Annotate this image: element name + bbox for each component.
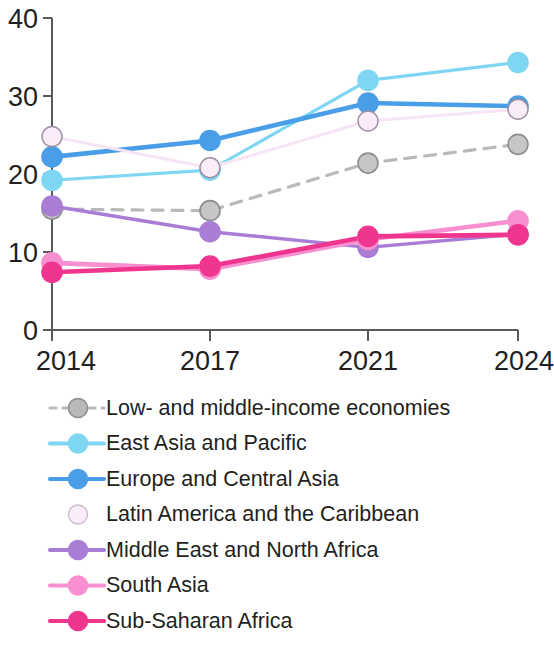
legend-swatch-marker: [69, 612, 88, 631]
legend-item-label: Low- and middle-income economies: [106, 396, 450, 420]
series-marker: [358, 93, 378, 113]
series-marker: [42, 170, 62, 190]
legend-item[interactable]: South Asia: [50, 573, 209, 597]
legend-item-label: Latin America and the Caribbean: [106, 502, 419, 526]
legend-swatch-marker: [69, 541, 88, 560]
y-axis-tick-label: 0: [23, 316, 38, 346]
legend-swatch-marker: [69, 434, 88, 453]
legend-item-label: Middle East and North Africa: [106, 538, 379, 562]
series-marker: [42, 127, 62, 147]
series-marker: [508, 225, 528, 245]
series-marker: [42, 147, 62, 167]
series-marker: [508, 99, 528, 119]
x-axis-tick-label: 2017: [180, 346, 240, 376]
legend-item-label: Sub-Saharan Africa: [106, 609, 292, 633]
series-marker: [200, 130, 220, 150]
series-marker: [200, 201, 220, 221]
series-marker: [42, 196, 62, 216]
y-axis-tick-label: 20: [8, 160, 38, 190]
x-axis-tick-label: 2024: [494, 346, 554, 376]
series-marker: [358, 153, 378, 173]
legend-item[interactable]: Latin America and the Caribbean: [50, 502, 419, 526]
legend-item-label: South Asia: [106, 573, 209, 597]
legend-item[interactable]: Low- and middle-income economies: [50, 396, 450, 420]
legend-swatch-marker: [69, 576, 88, 595]
legend-swatch-marker: [69, 399, 88, 418]
x-axis-tick-label: 2014: [36, 346, 96, 376]
y-axis-tick-label: 10: [8, 238, 38, 268]
y-axis-tick-label: 30: [8, 82, 38, 112]
series-marker: [508, 134, 528, 154]
y-axis-tick-label: 40: [8, 4, 38, 34]
legend-swatch-marker: [69, 505, 88, 524]
line-chart: 010203040 2014201720212024 Low- and midd…: [0, 0, 554, 650]
series-marker: [42, 262, 62, 282]
series-marker: [200, 256, 220, 276]
legend-swatch-marker: [69, 470, 88, 489]
legend-item-label: East Asia and Pacific: [106, 431, 307, 455]
series-marker: [200, 222, 220, 242]
series-marker: [358, 111, 378, 131]
series-marker: [200, 158, 220, 178]
x-axis-tick-label: 2021: [338, 346, 398, 376]
legend-item-label: Europe and Central Asia: [106, 467, 339, 491]
series-marker: [508, 52, 528, 72]
series-marker: [358, 226, 378, 246]
series-marker: [358, 70, 378, 90]
